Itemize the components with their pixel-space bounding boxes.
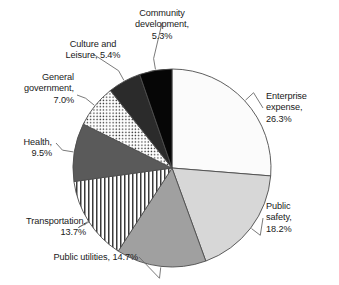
leader-line-culture-and-leisure-stub <box>119 71 124 81</box>
pie-chart-figure: Enterprise expense, 26.3% Public safety,… <box>0 0 339 285</box>
pie-slice <box>172 69 271 176</box>
leader-line-general-government-stub <box>86 98 95 105</box>
slice-label-general-government: General government, 7.0% <box>4 72 74 106</box>
slice-label-transportation: Transportation, 13.7% <box>4 216 86 239</box>
slice-label-public-utilities: Public utilities, 14.7% <box>14 252 138 263</box>
slice-label-public-safety: Public safety, 18.2% <box>266 201 338 235</box>
leader-line-community-development-stub <box>154 59 156 70</box>
leader-line-health <box>56 143 62 150</box>
leader-line-general-government <box>77 95 86 98</box>
leader-line-public-safety-stub <box>252 229 261 236</box>
slice-label-community-development: Community development, 5.3% <box>120 8 204 42</box>
slice-label-enterprise-expense: Enterprise expense, 26.3% <box>266 91 338 125</box>
leader-line-enterprise-expense <box>254 93 263 108</box>
pie-slices-group <box>73 69 271 267</box>
leader-line-enterprise-expense-stub <box>245 93 253 100</box>
slice-label-culture-and-leisure: Culture and Leisure, 5.4% <box>54 39 132 62</box>
leader-line-public-safety <box>260 218 263 235</box>
leader-line-public-utilities-stub <box>159 267 160 278</box>
leader-line-health-stub <box>62 150 73 152</box>
slice-label-health: Health, 9.5% <box>6 137 52 160</box>
